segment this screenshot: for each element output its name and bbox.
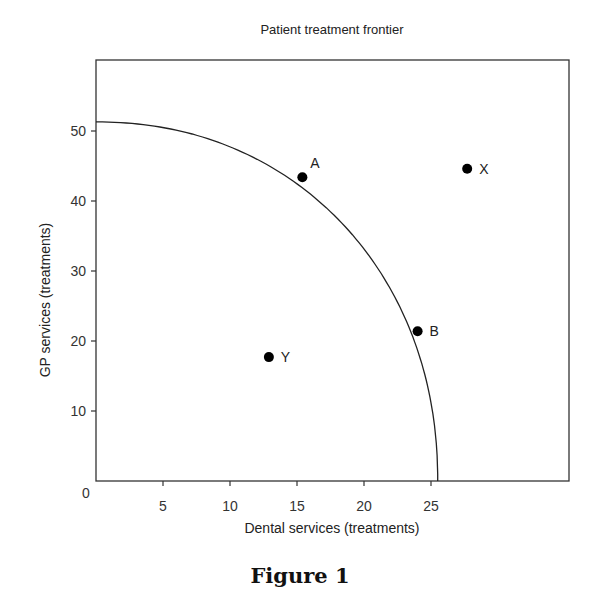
plot-frame xyxy=(96,60,569,481)
data-points: ABXY xyxy=(264,155,489,365)
chart-title: Patient treatment frontier xyxy=(260,22,404,37)
point-label: X xyxy=(479,161,489,177)
point-x: X xyxy=(462,161,489,177)
x-tick-label: 25 xyxy=(423,498,439,514)
y-tick-label: 40 xyxy=(70,193,86,209)
point-a: A xyxy=(297,155,320,182)
point-b: B xyxy=(413,323,439,339)
y-tick-label: 20 xyxy=(70,333,86,349)
origin-label: 0 xyxy=(82,485,90,501)
point-marker xyxy=(413,326,423,336)
x-axis-label: Dental services (treatments) xyxy=(244,520,419,536)
x-axis-ticks: 510152025 xyxy=(159,481,439,514)
point-marker xyxy=(264,352,274,362)
point-marker xyxy=(297,172,307,182)
y-tick-label: 10 xyxy=(70,403,86,419)
y-tick-label: 30 xyxy=(70,263,86,279)
point-label: Y xyxy=(281,349,291,365)
point-label: A xyxy=(310,155,320,171)
y-axis-label: GP services (treatments) xyxy=(37,223,53,378)
x-tick-label: 5 xyxy=(159,498,167,514)
point-y: Y xyxy=(264,349,291,365)
chart-svg: Patient treatment frontier 510152025 102… xyxy=(0,0,600,560)
x-tick-label: 15 xyxy=(289,498,305,514)
frontier-curve xyxy=(96,122,438,481)
x-tick-label: 20 xyxy=(356,498,372,514)
y-axis-ticks: 1020304050 xyxy=(70,123,96,419)
y-tick-label: 50 xyxy=(70,123,86,139)
figure-caption: Figure 1 xyxy=(0,563,600,588)
point-label: B xyxy=(430,323,439,339)
point-marker xyxy=(462,164,472,174)
x-tick-label: 10 xyxy=(222,498,238,514)
